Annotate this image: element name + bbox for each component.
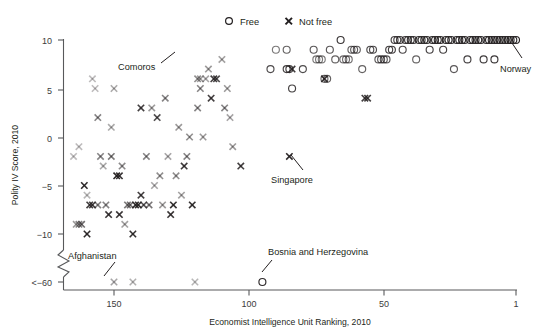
anno-line-singapore: [291, 155, 303, 170]
data-point-free: [326, 46, 333, 53]
legend-entry-free: Free: [226, 17, 260, 27]
data-point-notfree: [238, 163, 244, 169]
data-point-notfree: [159, 202, 165, 208]
data-point-notfree: [84, 192, 90, 198]
data-point-notfree: [143, 153, 149, 159]
data-point-free: [272, 46, 279, 53]
data-point-notfree: [186, 134, 192, 140]
data-point-notfree: [138, 105, 144, 111]
x-tick-label-1: 1: [513, 299, 518, 309]
data-point-notfree: [89, 76, 95, 82]
anno-line-afghanistan: [104, 262, 115, 276]
data-point-notfree: [100, 163, 106, 169]
data-point-free: [426, 46, 433, 53]
legend-circle-icon: [226, 18, 233, 25]
y-tick-label-10: 10: [42, 36, 52, 46]
data-point-free: [440, 46, 447, 53]
data-point-free: [289, 85, 296, 92]
data-point-notfree: [119, 163, 125, 169]
data-point-notfree: [95, 114, 101, 120]
data-point-notfree: [149, 105, 155, 111]
anno-line-norway: [512, 43, 522, 58]
data-point-notfree: [197, 85, 203, 91]
data-point-notfree: [81, 182, 87, 188]
data-point-notfree: [178, 192, 184, 198]
data-point-notfree: [151, 182, 157, 188]
data-point-notfree: [130, 279, 136, 285]
data-point-notfree: [111, 85, 117, 91]
data-point-notfree: [224, 85, 230, 91]
legend-entry-notfree: Not free: [286, 17, 333, 27]
chart-root: Free Not free 10 5 0 −5: [0, 0, 542, 332]
data-point-notfree: [108, 153, 114, 159]
data-point-free: [337, 37, 344, 44]
data-point-notfree: [157, 173, 163, 179]
anno-label-afghanistan: Afghanistan: [68, 251, 117, 261]
data-point-notfree: [95, 202, 101, 208]
data-point-notfree: [176, 124, 182, 130]
data-point-notfree: [173, 173, 179, 179]
data-point-notfree: [203, 76, 209, 82]
legend-label-notfree: Not free: [299, 17, 332, 27]
scatter-plot: Free Not free 10 5 0 −5: [0, 0, 542, 332]
data-point-free: [399, 46, 406, 53]
data-point-notfree: [189, 202, 195, 208]
x-tick-label-100: 100: [241, 299, 256, 309]
data-point-notfree: [170, 202, 176, 208]
data-point-notfree: [122, 221, 128, 227]
data-point-notfree: [105, 211, 111, 217]
data-point-notfree: [84, 231, 90, 237]
data-point-notfree: [154, 114, 160, 120]
y-tick-label-minus10: −10: [37, 230, 52, 240]
data-point-notfree: [192, 279, 198, 285]
data-point-notfree: [162, 95, 168, 101]
data-point-free: [299, 66, 306, 73]
y-tick-label-minus60: <−60: [31, 278, 52, 288]
data-point-notfree: [103, 202, 109, 208]
anno-label-comoros: Comoros: [118, 62, 156, 72]
data-point-notfree: [70, 153, 76, 159]
y-axis-title: Polity IV Score, 2010: [10, 125, 20, 205]
anno-line-bosnia: [262, 260, 272, 272]
data-point-notfree: [165, 153, 171, 159]
data-point-notfree: [194, 105, 200, 111]
anno-line-comoros: [161, 52, 175, 63]
data-point-notfree: [208, 95, 214, 101]
data-point-notfree: [111, 279, 117, 285]
annotations: Comoros Norway Singapore Afghanistan Bos…: [68, 43, 532, 276]
anno-label-bosnia: Bosnia and Herzegovina: [268, 247, 369, 257]
x-axis-title: Economist Intelligence Unit Ranking, 201…: [209, 317, 371, 327]
data-point-notfree: [97, 153, 103, 159]
x-tick-label-50: 50: [379, 299, 389, 309]
data-point-free: [310, 46, 317, 53]
axes: 10 5 0 −5 −10 <−60 150 100 50 1 Economis…: [10, 36, 519, 328]
data-point-free: [332, 56, 339, 63]
data-point-notfree: [146, 202, 152, 208]
y-tick-label-0: 0: [47, 134, 52, 144]
data-point-notfree: [108, 124, 114, 130]
data-point-notfree: [184, 153, 190, 159]
data-point-free: [359, 66, 366, 73]
data-point-free: [413, 56, 420, 63]
data-point-free: [480, 56, 487, 63]
data-point-notfree: [181, 163, 187, 169]
x-tick-label-150: 150: [106, 299, 121, 309]
data-point-notfree: [92, 85, 98, 91]
data-point-notfree: [227, 114, 233, 120]
anno-label-singapore: Singapore: [271, 175, 313, 185]
data-point-notfree: [130, 231, 136, 237]
data-point-free: [464, 56, 471, 63]
data-point-free: [491, 56, 498, 63]
legend: Free Not free: [226, 17, 332, 27]
data-point-notfree: [76, 144, 82, 150]
legend-x-icon: [286, 18, 293, 25]
data-point-notfree: [221, 105, 227, 111]
data-point-notfree: [138, 192, 144, 198]
data-point-notfree: [230, 144, 236, 150]
data-point-free: [259, 279, 266, 286]
data-point-free: [283, 46, 290, 53]
data-point-free: [267, 66, 274, 73]
data-point-notfree: [205, 66, 211, 72]
data-point-free: [450, 66, 457, 73]
y-tick-label-5: 5: [47, 86, 52, 96]
